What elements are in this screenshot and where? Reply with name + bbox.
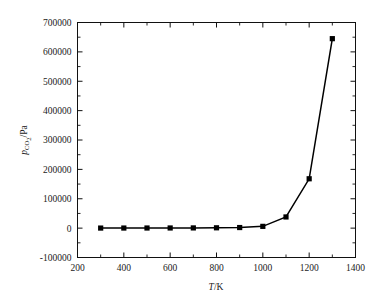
y-tick-label: 400000: [43, 106, 72, 116]
x-tick-label: 800: [209, 263, 224, 273]
data-point-marker: [330, 36, 335, 41]
svg-text:T/K: T/K: [209, 282, 224, 292]
y-tick-label: 500000: [43, 77, 72, 87]
x-axis-title: T/K: [209, 282, 224, 292]
data-point-marker: [237, 225, 242, 230]
data-point-marker: [144, 225, 149, 230]
y-tick-label: 700000: [43, 18, 72, 28]
data-point-marker: [191, 225, 196, 230]
y-tick-label: 600000: [43, 47, 72, 57]
x-tick-label: 200: [70, 263, 85, 273]
x-tick-label: 1200: [300, 263, 319, 273]
data-point-marker: [260, 224, 265, 229]
x-tick-label: 400: [117, 263, 132, 273]
y-tick-label: 200000: [43, 165, 72, 175]
data-point-marker: [168, 225, 173, 230]
data-point-marker: [214, 225, 219, 230]
data-point-marker: [283, 214, 288, 219]
y-tick-label: 300000: [43, 135, 72, 145]
y-tick-label: 100000: [43, 194, 72, 204]
y-tick-label: 0: [67, 224, 72, 234]
y-tick-label: -100000: [40, 253, 72, 263]
chart-figure: -100000010000020000030000040000050000060…: [0, 0, 382, 306]
data-point-marker: [307, 176, 312, 181]
pco2-vs-temperature-line-chart: -100000010000020000030000040000050000060…: [0, 0, 382, 306]
data-point-marker: [121, 225, 126, 230]
x-tick-label: 1400: [346, 263, 365, 273]
x-tick-label: 1000: [253, 263, 272, 273]
data-point-marker: [98, 225, 103, 230]
x-tick-label: 600: [163, 263, 178, 273]
